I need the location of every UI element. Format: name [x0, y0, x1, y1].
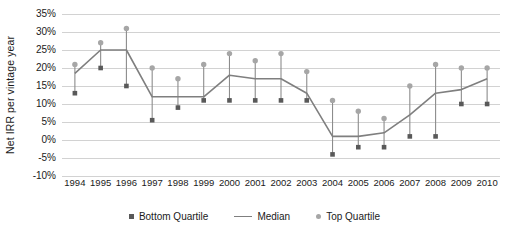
x-axis-tick-label: 2010: [477, 177, 498, 189]
y-axis-tick-label: 20%: [14, 63, 60, 73]
x-axis-tick-label: 1996: [116, 177, 137, 189]
x-axis-tick-label: 2002: [270, 177, 291, 189]
bottom-quartile-marker: [382, 145, 387, 150]
top-quartile-marker: [227, 51, 232, 56]
x-axis-tick-label: 2007: [399, 177, 420, 189]
top-quartile-marker: [484, 65, 489, 70]
x-axis-tick-label: 2001: [245, 177, 266, 189]
x-axis-tick-label: 2006: [373, 177, 394, 189]
top-quartile-marker: [278, 51, 283, 56]
bottom-quartile-marker: [253, 98, 258, 103]
x-axis-tick-label: 1999: [193, 177, 214, 189]
bottom-quartile-marker: [150, 118, 155, 123]
y-axis-tick-label: 10%: [14, 99, 60, 109]
top-quartile-marker: [304, 69, 309, 74]
legend-item-label: Top Quartile: [326, 211, 380, 222]
x-axis-tick-label: 2009: [451, 177, 472, 189]
top-quartile-marker: [98, 40, 103, 45]
y-axis-tick-label: -10%: [14, 171, 60, 181]
bottom-quartile-marker: [227, 98, 232, 103]
legend-item[interactable]: Median: [234, 211, 290, 222]
top-quartile-marker: [201, 62, 206, 67]
bottom-quartile-marker: [176, 105, 181, 110]
top-quartile-marker: [175, 76, 180, 81]
plot-area: [62, 14, 500, 176]
x-axis-tick-label: 2005: [348, 177, 369, 189]
bottom-quartile-marker: [459, 102, 464, 107]
bottom-quartile-marker: [201, 98, 206, 103]
x-axis-tick-label: 1997: [142, 177, 163, 189]
bottom-quartile-marker: [73, 91, 78, 96]
y-axis-tick-label: 0%: [14, 135, 60, 145]
chart-legend: Bottom QuartileMedianTop Quartile: [0, 206, 509, 226]
top-quartile-marker: [330, 98, 335, 103]
y-axis-tick-label: 25%: [14, 45, 60, 55]
legend-square-icon: [129, 214, 134, 219]
x-axis-tick-labels: 1994199519961997199819992000200120022003…: [62, 177, 500, 193]
top-quartile-marker: [356, 109, 361, 114]
legend-item-label: Bottom Quartile: [139, 211, 208, 222]
data-series-svg: [62, 14, 500, 176]
bottom-quartile-marker: [279, 98, 284, 103]
bottom-quartile-marker: [98, 66, 103, 71]
top-quartile-marker: [124, 26, 129, 31]
legend-circle-icon: [316, 214, 321, 219]
bottom-quartile-marker: [304, 98, 309, 103]
bottom-quartile-marker: [433, 134, 438, 139]
legend-item[interactable]: Bottom Quartile: [129, 211, 208, 222]
x-axis-tick-label: 1994: [64, 177, 85, 189]
y-axis-tick-label: 35%: [14, 9, 60, 19]
x-axis-tick-label: 2003: [296, 177, 317, 189]
x-axis-tick-label: 1995: [90, 177, 111, 189]
legend-item-label: Median: [257, 211, 290, 222]
bottom-quartile-marker: [485, 102, 490, 107]
x-axis-tick-label: 2008: [425, 177, 446, 189]
x-axis-tick-label: 2004: [322, 177, 343, 189]
x-axis-tick-label: 1998: [167, 177, 188, 189]
x-axis-tick-label: 2000: [219, 177, 240, 189]
y-axis-tick-label: -5%: [14, 153, 60, 163]
top-quartile-marker: [72, 62, 77, 67]
y-axis-tick-label: 5%: [14, 117, 60, 127]
chart-container: Net IRR per vintage year 35%30%25%20%15%…: [0, 0, 509, 231]
bottom-quartile-marker: [356, 145, 361, 150]
bottom-quartile-marker: [124, 84, 129, 89]
bottom-quartile-marker: [330, 152, 335, 157]
top-quartile-marker: [459, 65, 464, 70]
top-quartile-marker: [433, 62, 438, 67]
legend-item[interactable]: Top Quartile: [316, 211, 380, 222]
top-quartile-marker: [407, 83, 412, 88]
y-axis-tick-labels: 35%30%25%20%15%10%5%0%-5%-10%: [14, 0, 60, 231]
top-quartile-marker: [253, 58, 258, 63]
bottom-quartile-marker: [408, 134, 413, 139]
y-axis-tick-label: 30%: [14, 27, 60, 37]
top-quartile-marker: [149, 65, 154, 70]
y-axis-tick-label: 15%: [14, 81, 60, 91]
legend-line-icon: [234, 216, 252, 217]
top-quartile-marker: [381, 116, 386, 121]
